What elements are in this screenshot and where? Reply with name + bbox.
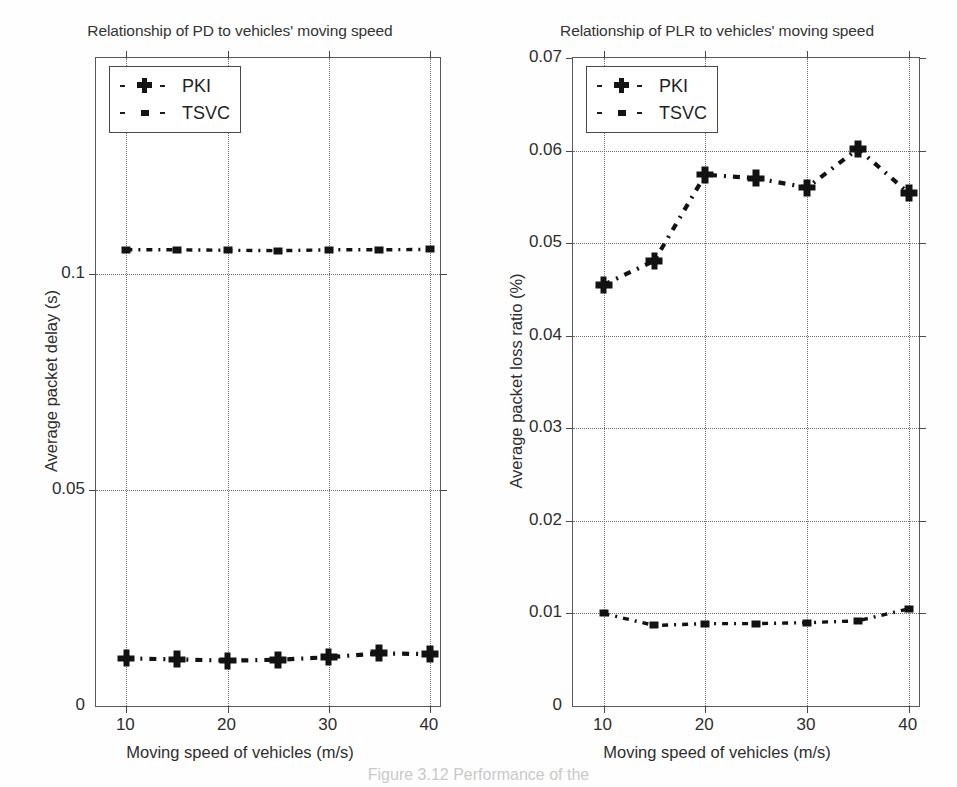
data-point-pki [595, 276, 612, 293]
legend-label-tsvc: TSVC [659, 104, 707, 122]
figure-caption: Figure 3.12 Performance of the [0, 766, 957, 784]
y-tick-mark [440, 274, 447, 275]
x-tick-mark [329, 51, 330, 58]
y-tick-label: 0.03 [529, 417, 562, 437]
series-lines [96, 58, 440, 706]
data-point-pki [168, 651, 185, 668]
data-point-tsvc [599, 610, 608, 617]
x-tick-mark [604, 51, 605, 58]
data-point-pki [219, 652, 236, 669]
x-tick-mark [705, 706, 706, 713]
data-point-pki [900, 185, 917, 202]
data-point-pki [421, 646, 438, 663]
legend-marker-tsvc-icon [595, 103, 649, 123]
data-point-tsvc [650, 622, 659, 629]
legend-entry-tsvc: TSVC [118, 99, 230, 126]
data-point-pki [270, 651, 287, 668]
data-point-pki [849, 140, 866, 157]
y-tick-mark [919, 243, 926, 244]
data-point-pki [118, 650, 135, 667]
chart-panel-pd: Relationship of PD to vehicles' moving s… [0, 0, 480, 787]
x-tick-label: 40 [898, 715, 917, 735]
y-tick-label: 0.06 [529, 140, 562, 160]
data-point-tsvc [223, 247, 232, 254]
y-tick-label: 0.01 [529, 602, 562, 622]
plot-area-pd [95, 57, 441, 707]
data-point-pki [748, 170, 765, 187]
data-point-tsvc [904, 605, 913, 612]
x-tick-mark [909, 51, 910, 58]
y-tick-mark [440, 490, 447, 491]
x-tick-label: 20 [217, 715, 236, 735]
x-tick-mark [430, 706, 431, 713]
x-tick-mark [329, 706, 330, 713]
data-point-tsvc [172, 246, 181, 253]
x-tick-mark [807, 706, 808, 713]
figure-root: Relationship of PD to vehicles' moving s… [0, 0, 957, 787]
data-point-tsvc [853, 617, 862, 624]
x-tick-label: 30 [318, 715, 337, 735]
plot-inner-pd [96, 58, 440, 706]
legend-marker-pki-icon [595, 76, 649, 96]
chart-panel-plr: Relationship of PLR to vehicles' moving … [477, 0, 957, 787]
x-tick-mark [909, 706, 910, 713]
legend-plr: PKI TSVC [586, 66, 718, 133]
data-point-pki [320, 649, 337, 666]
x-axis-label-pd: Moving speed of vehicles (m/s) [0, 743, 480, 762]
data-point-tsvc [425, 246, 434, 253]
data-point-pki [697, 166, 714, 183]
legend-entry-pki: PKI [118, 72, 230, 99]
data-point-tsvc [274, 247, 283, 254]
y-tick-mark [89, 490, 96, 491]
data-point-tsvc [324, 246, 333, 253]
data-point-tsvc [375, 246, 384, 253]
data-point-tsvc [752, 620, 761, 627]
legend-marker-pki-icon [118, 76, 172, 96]
y-axis-label-pd: Average packet delay (s) [42, 290, 61, 472]
x-tick-label: 10 [593, 715, 612, 735]
data-point-tsvc [122, 246, 131, 253]
legend-label-pki: PKI [659, 77, 688, 95]
series-lines [573, 58, 919, 706]
y-tick-label: 0.04 [529, 325, 562, 345]
x-tick-label: 30 [797, 715, 816, 735]
y-tick-label: 0 [76, 695, 85, 715]
x-tick-mark [807, 51, 808, 58]
y-tick-mark [89, 274, 96, 275]
x-tick-mark [430, 51, 431, 58]
y-tick-mark [919, 336, 926, 337]
legend-label-pki: PKI [182, 77, 211, 95]
y-tick-label: 0 [553, 695, 562, 715]
y-tick-mark [919, 613, 926, 614]
x-tick-mark [126, 706, 127, 713]
data-point-pki [646, 252, 663, 269]
legend-entry-tsvc: TSVC [595, 99, 707, 126]
x-tick-label: 40 [419, 715, 438, 735]
x-tick-label: 10 [116, 715, 135, 735]
x-tick-mark [126, 51, 127, 58]
y-tick-mark [566, 428, 573, 429]
y-tick-label: 0.02 [529, 510, 562, 530]
y-tick-mark [919, 58, 926, 59]
plot-inner-plr [573, 58, 919, 706]
y-tick-mark [566, 151, 573, 152]
y-tick-label: 0.05 [52, 479, 85, 499]
legend-marker-tsvc-icon [118, 103, 172, 123]
y-tick-mark [566, 613, 573, 614]
y-tick-label: 0.07 [529, 47, 562, 67]
chart-title-pd: Relationship of PD to vehicles' moving s… [0, 22, 480, 40]
plot-area-plr [572, 57, 920, 707]
legend-pd: PKI TSVC [109, 66, 241, 133]
legend-label-tsvc: TSVC [182, 104, 230, 122]
x-axis-label-plr: Moving speed of vehicles (m/s) [477, 743, 957, 762]
y-tick-mark [919, 151, 926, 152]
y-tick-label: 0.1 [61, 263, 85, 283]
x-tick-mark [228, 51, 229, 58]
legend-entry-pki: PKI [595, 72, 707, 99]
data-point-tsvc [701, 620, 710, 627]
x-tick-mark [705, 51, 706, 58]
y-tick-mark [919, 428, 926, 429]
y-tick-mark [566, 58, 573, 59]
x-tick-label: 20 [695, 715, 714, 735]
data-point-tsvc [803, 619, 812, 626]
